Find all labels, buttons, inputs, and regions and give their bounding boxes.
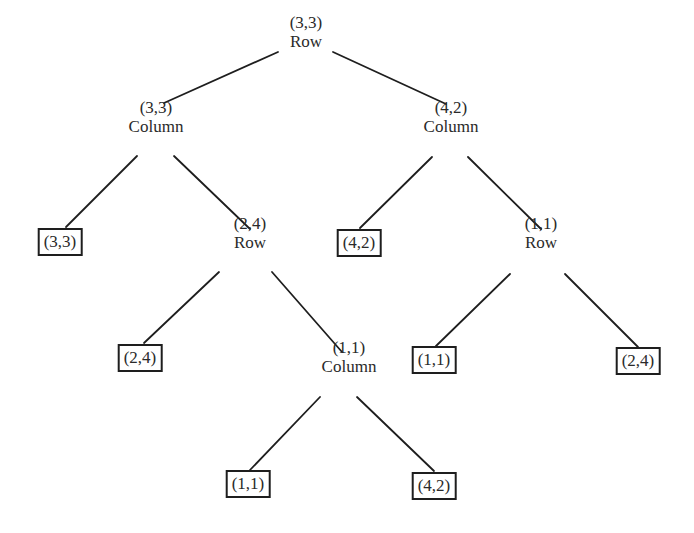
node-player: Column xyxy=(424,117,479,136)
decision-node-row-left: (2,4) Row xyxy=(234,214,267,252)
node-player: Column xyxy=(129,117,184,136)
terminal-payoff-box: (2,4) xyxy=(616,347,661,375)
edge-root-n2 xyxy=(333,52,446,104)
node-payoff: (4,2) xyxy=(424,98,479,117)
decision-node-column-right: (4,2) Column xyxy=(424,98,479,136)
edge-root-n1 xyxy=(164,52,278,103)
node-payoff: (1,1) xyxy=(322,338,377,357)
decision-node-column-left: (3,3) Column xyxy=(129,98,184,136)
decision-node-root: (3,3) Row xyxy=(290,13,323,51)
node-payoff: (3,3) xyxy=(129,98,184,117)
decision-node-column-bottom: (1,1) Column xyxy=(322,338,377,376)
node-payoff: (3,3) xyxy=(290,13,323,32)
node-player: Column xyxy=(322,357,377,376)
terminal-payoff-box: (3,3) xyxy=(38,228,83,256)
node-payoff: (1,1) xyxy=(525,214,558,233)
node-player: Row xyxy=(525,233,558,252)
game-tree-edges xyxy=(0,0,694,533)
edge-n5-l7 xyxy=(357,397,434,471)
terminal-payoff-box: (2,4) xyxy=(118,344,163,372)
terminal-payoff-box: (4,2) xyxy=(412,472,457,500)
node-player: Row xyxy=(234,233,267,252)
terminal-payoff-box: (1,1) xyxy=(226,470,271,498)
terminal-payoff-box: (1,1) xyxy=(412,346,457,374)
edge-n1-l1 xyxy=(66,156,137,227)
edge-n4-l5 xyxy=(565,274,638,347)
node-player: Row xyxy=(290,32,323,51)
terminal-payoff-box: (4,2) xyxy=(337,229,382,257)
node-payoff: (2,4) xyxy=(234,214,267,233)
edge-n4-l4 xyxy=(436,274,510,346)
edge-n2-l2 xyxy=(360,157,432,228)
decision-node-row-right: (1,1) Row xyxy=(525,214,558,252)
edge-n3-l3 xyxy=(144,272,219,343)
edge-n5-l6 xyxy=(250,397,320,470)
